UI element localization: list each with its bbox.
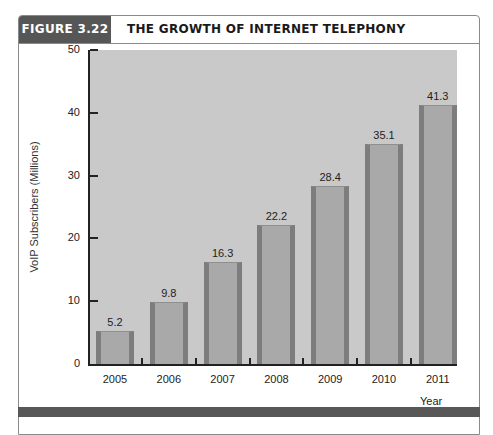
bar-2007 (204, 262, 242, 364)
y-tick-mark (90, 175, 98, 177)
x-tick-label: 2006 (149, 373, 189, 385)
bar-value-label: 41.3 (419, 90, 457, 102)
bar-value-label: 22.2 (257, 210, 295, 222)
bar-value-label: 9.8 (150, 287, 188, 299)
x-tick-label: 2011 (418, 373, 458, 385)
figure-number-label: FIGURE 3.22 (19, 16, 111, 43)
x-tick-mark (141, 358, 143, 366)
bar-2008 (257, 225, 295, 364)
bar-2011 (419, 105, 457, 364)
y-tick-label: 10 (60, 294, 80, 306)
y-tick-label: 40 (60, 106, 80, 118)
x-tick-label: 2007 (203, 373, 243, 385)
plot-area (88, 50, 457, 366)
y-tick-label: 30 (60, 169, 80, 181)
bar-2010 (365, 144, 403, 364)
x-tick-mark (356, 358, 358, 366)
y-axis-title: VoIP Subscribers (Millions) (28, 141, 40, 272)
figure-header: FIGURE 3.22 THE GROWTH OF INTERNET TELEP… (19, 16, 479, 44)
x-tick-mark (410, 358, 412, 366)
bar-value-label: 28.4 (311, 171, 349, 183)
y-tick-mark (90, 49, 98, 51)
x-tick-mark (302, 358, 304, 366)
x-tick-label: 2005 (95, 373, 135, 385)
x-tick-label: 2008 (256, 373, 296, 385)
bar-value-label: 35.1 (365, 129, 403, 141)
bar-2006 (150, 302, 188, 364)
y-tick-label: 50 (60, 43, 80, 55)
y-tick-mark (90, 300, 98, 302)
x-tick-mark (249, 358, 251, 366)
bottom-band (18, 407, 480, 417)
y-tick-label: 20 (60, 231, 80, 243)
bar-value-label: 16.3 (204, 247, 242, 259)
x-tick-mark (195, 358, 197, 366)
bar-value-label: 5.2 (96, 316, 134, 328)
y-tick-mark (90, 237, 98, 239)
bar-2005 (96, 331, 134, 364)
y-tick-mark (90, 112, 98, 114)
x-tick-label: 2010 (364, 373, 404, 385)
bar-2009 (311, 186, 349, 364)
y-tick-label: 0 (60, 357, 80, 369)
x-axis-title: Year (420, 395, 442, 407)
figure-title: THE GROWTH OF INTERNET TELEPHONY (127, 16, 405, 43)
x-tick-label: 2009 (310, 373, 350, 385)
